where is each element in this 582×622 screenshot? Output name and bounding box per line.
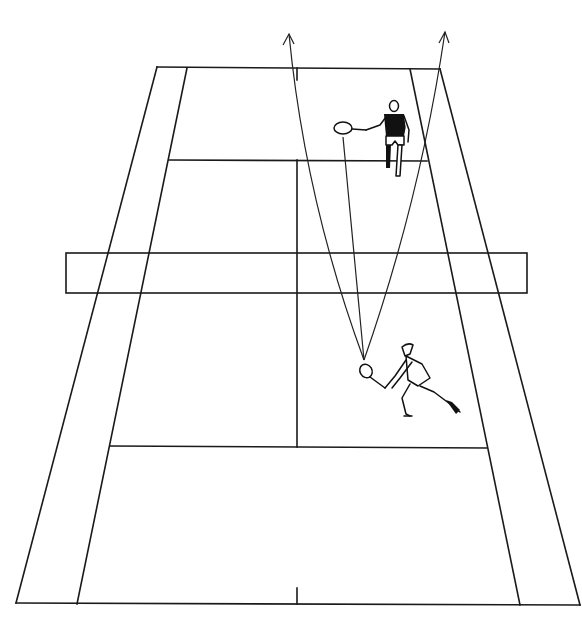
- left-singles-sideline: [77, 68, 187, 604]
- court-lines: [16, 67, 580, 605]
- near-player-body: [406, 356, 430, 386]
- far-player-head: [390, 101, 399, 112]
- left-doubles-sideline: [16, 67, 157, 603]
- far-baseline: [157, 67, 440, 69]
- tennis-court-diagram: Tennis court diagram: near player volley…: [0, 0, 582, 622]
- right-doubles-sideline: [440, 69, 580, 605]
- near-player-racket-icon: [357, 362, 374, 380]
- arrow-head-left-icon: [283, 34, 294, 45]
- trajectory-left-lob: [289, 34, 364, 360]
- trajectory-to-opponent: [343, 137, 364, 360]
- right-singles-sideline: [410, 69, 520, 605]
- ball-trajectories: [283, 32, 449, 360]
- far-player-racket-icon: [334, 122, 352, 134]
- near-player-head: [402, 344, 413, 356]
- near-player-figure: [357, 344, 460, 416]
- trajectory-right-lob: [364, 32, 445, 360]
- near-baseline: [16, 603, 580, 605]
- far-player-shirt: [384, 114, 406, 136]
- court-svg: [0, 0, 582, 622]
- near-service-line: [110, 446, 487, 448]
